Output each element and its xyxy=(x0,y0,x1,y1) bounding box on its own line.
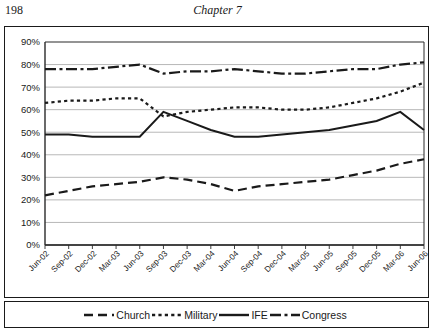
legend-swatch-congress xyxy=(270,310,300,320)
x-axis-label-Sep-03: Sep-03 xyxy=(144,249,169,274)
legend-entry-church[interactable]: Church xyxy=(84,309,152,321)
legend-label-ife: IFE xyxy=(249,309,269,321)
y-axis-label-50%: 50% xyxy=(21,127,41,138)
x-axis-label-Jun-05: Jun-05 xyxy=(311,249,335,273)
legend-entry-ife[interactable]: IFE xyxy=(219,309,269,321)
y-axis-label-80%: 80% xyxy=(21,59,41,70)
chapter-title: Chapter 7 xyxy=(0,3,435,18)
legend-label-military: Military xyxy=(182,309,219,321)
x-axis-label-Jun-04: Jun-04 xyxy=(216,249,240,273)
series-line-congress xyxy=(45,62,424,73)
x-axis-label-Dec-05: Dec-05 xyxy=(358,249,383,274)
y-axis-label-40%: 40% xyxy=(21,149,41,160)
legend-entry-military[interactable]: Military xyxy=(152,309,219,321)
chart-frame: 0%10%20%30%40%50%60%70%80%90%Jun-02Sep-0… xyxy=(4,26,429,298)
legend-items: ChurchMilitaryIFECongress xyxy=(5,302,428,327)
chart-legend: ChurchMilitaryIFECongress xyxy=(4,301,429,328)
legend-label-church: Church xyxy=(114,309,152,321)
y-axis-label-10%: 10% xyxy=(21,217,41,228)
legend-swatch-ife xyxy=(219,310,249,320)
x-axis-label-Mar-06: Mar-06 xyxy=(382,249,407,274)
line-chart: 0%10%20%30%40%50%60%70%80%90%Jun-02Sep-0… xyxy=(5,27,428,297)
legend-swatch-military xyxy=(152,310,182,320)
series-line-ife xyxy=(45,112,424,137)
x-axis-label-Dec-04: Dec-04 xyxy=(263,249,288,274)
y-axis-label-70%: 70% xyxy=(21,82,41,93)
x-axis-label-Sep-05: Sep-05 xyxy=(334,249,359,274)
y-axis-label-20%: 20% xyxy=(21,194,41,205)
page-header: 198 Chapter 7 xyxy=(0,0,435,26)
x-axis-label-Dec-03: Dec-03 xyxy=(168,249,193,274)
x-axis-label-Sep-04: Sep-04 xyxy=(239,249,264,274)
x-axis-label-Mar-03: Mar-03 xyxy=(97,249,122,274)
x-axis-label-Jun-02: Jun-02 xyxy=(27,249,51,273)
legend-entry-congress[interactable]: Congress xyxy=(270,309,349,321)
x-axis-label-Dec-02: Dec-02 xyxy=(73,249,98,274)
y-axis-label-30%: 30% xyxy=(21,172,41,183)
x-axis-label-Mar-05: Mar-05 xyxy=(287,249,312,274)
legend-swatch-church xyxy=(84,310,114,320)
y-axis-label-90%: 90% xyxy=(21,36,41,47)
x-axis-label-Mar-04: Mar-04 xyxy=(192,249,217,274)
legend-label-congress: Congress xyxy=(300,309,349,321)
x-axis-label-Sep-02: Sep-02 xyxy=(50,249,75,274)
x-axis-label-Jun-06: Jun-06 xyxy=(406,249,428,273)
y-axis-label-0%: 0% xyxy=(26,239,40,250)
x-axis-label-Jun-03: Jun-03 xyxy=(122,249,146,273)
y-axis-label-60%: 60% xyxy=(21,104,41,115)
series-line-military xyxy=(45,83,424,117)
